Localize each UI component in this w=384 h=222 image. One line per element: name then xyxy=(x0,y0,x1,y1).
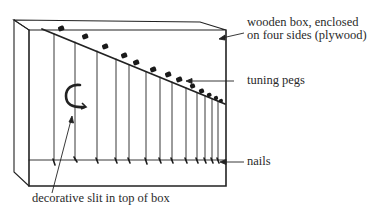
label-tuning-pegs: tuning pegs xyxy=(247,74,305,87)
leader-lines xyxy=(52,33,244,193)
wooden-box xyxy=(14,20,226,186)
label-decorative-slit: decorative slit in top of box xyxy=(32,192,170,205)
tuning-pegs xyxy=(57,25,223,103)
label-wooden-box: wooden box, enclosed on four sides (plyw… xyxy=(247,16,367,42)
label-wooden-box-line2: on four sides (plywood) xyxy=(247,29,367,42)
nails xyxy=(53,157,219,165)
strings xyxy=(54,34,218,160)
label-nails: nails xyxy=(247,155,271,168)
peg-rail xyxy=(42,29,225,104)
